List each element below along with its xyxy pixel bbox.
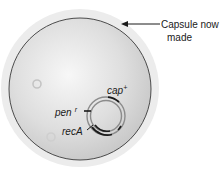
bacterium-diagram: cap+ penr recA Capsule now made <box>0 0 222 172</box>
callout-line-1: Capsule now <box>161 19 220 30</box>
callout-line-2: made <box>167 32 192 43</box>
capsule-callout-arrow <box>121 21 160 27</box>
reca-label: recA <box>62 126 83 137</box>
cell-body <box>9 18 151 160</box>
